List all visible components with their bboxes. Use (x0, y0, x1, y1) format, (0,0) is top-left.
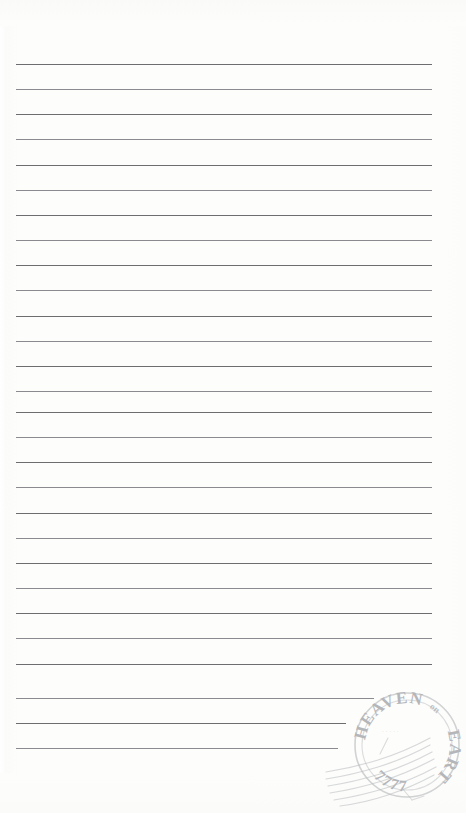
cancellation-waves (326, 738, 436, 806)
rule-line (16, 366, 432, 367)
postmark-bottom-arc-text: 7777 (372, 767, 409, 795)
rule-line (16, 513, 432, 514)
rule-line (16, 588, 432, 589)
rule-line (16, 462, 432, 463)
rule-line (16, 215, 432, 216)
postmark-stamp: HEAVEN on EARTH 7777 · · · · · (330, 676, 466, 813)
rule-line (16, 698, 374, 699)
rule-line (16, 290, 432, 291)
rule-line (16, 165, 432, 166)
postmark-separator-text: on (428, 701, 442, 715)
rule-line (16, 341, 432, 342)
postmark-center-text: · · · · · (382, 729, 399, 734)
postmark-outer-ring (355, 693, 459, 797)
rule-line (16, 139, 432, 140)
rule-line (16, 190, 432, 191)
rule-line (16, 316, 432, 317)
rule-line (16, 89, 432, 90)
postmark-inner-ring (362, 700, 452, 790)
paper-top-shading (0, 0, 466, 26)
rule-line (16, 114, 432, 115)
rule-line (16, 487, 432, 488)
rule-line (16, 412, 432, 413)
rule-line (16, 265, 432, 266)
rule-line (16, 538, 432, 539)
rule-line (16, 638, 432, 639)
postmark-right-arc-text: EARTH (323, 661, 465, 787)
rule-line (16, 563, 432, 564)
rule-line (16, 64, 432, 65)
rule-line (16, 437, 432, 438)
rule-line (16, 723, 346, 724)
paper-bottom-shading (0, 773, 466, 813)
rule-line (16, 748, 338, 749)
rule-line (16, 240, 432, 241)
rule-line (16, 664, 432, 665)
rule-line (16, 613, 432, 614)
rule-line (16, 391, 432, 392)
cancellation-cross-marks (380, 738, 424, 800)
paper-sheet: HEAVEN on EARTH 7777 · · · · · (0, 0, 466, 813)
postmark-top-arc-text: HEAVEN (350, 688, 425, 742)
paper-texture (0, 0, 466, 813)
